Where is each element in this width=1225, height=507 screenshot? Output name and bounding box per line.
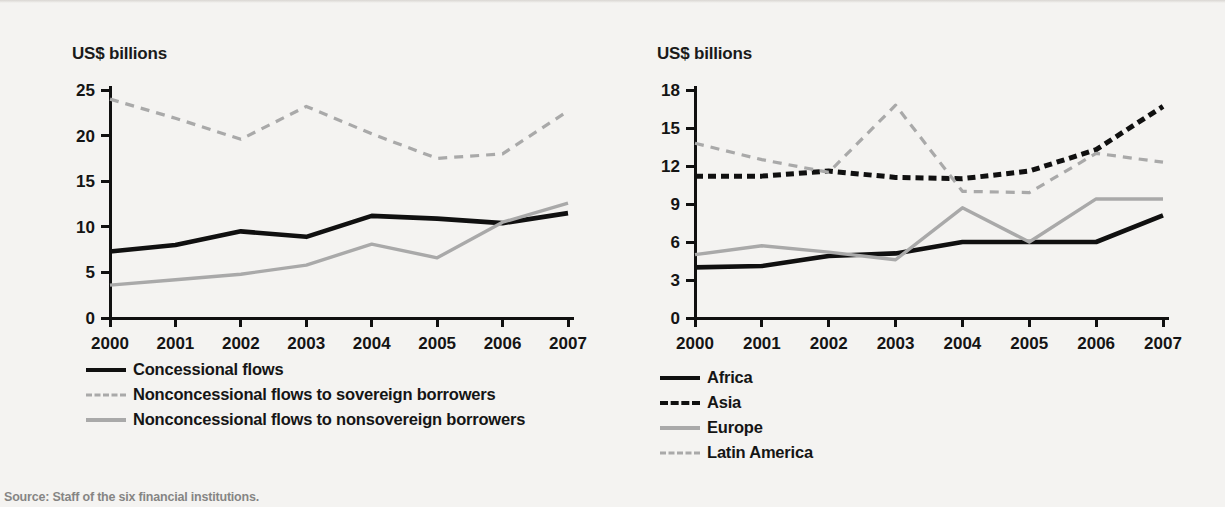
left-chart-plot-area: 0510152025200020012002200320042005200620… (0, 80, 615, 330)
svg-text:2001: 2001 (743, 334, 781, 353)
legend-item-europe[interactable]: Europe (660, 418, 813, 437)
right-chart-plot-area: 0369121518200020012002200320042005200620… (615, 80, 1225, 330)
legend-item-concessional-flows[interactable]: Concessional flows (86, 360, 525, 379)
left-chart-svg: 0510152025200020012002200320042005200620… (0, 80, 615, 330)
svg-text:2005: 2005 (1010, 334, 1048, 353)
svg-text:2004: 2004 (944, 334, 982, 353)
svg-text:15: 15 (661, 119, 680, 138)
legend-item-nonconcessional-nonsovereign[interactable]: Nonconcessional flows to nonsovereign bo… (86, 410, 525, 429)
svg-text:20: 20 (76, 127, 95, 146)
svg-text:2000: 2000 (676, 334, 714, 353)
left-chart-axis-title: US$ billions (72, 44, 167, 64)
legend-swatch-dashed-gray-icon (660, 446, 700, 460)
legend-swatch-solid-black-icon (86, 363, 126, 377)
legend-swatch-solid-gray-icon (86, 413, 126, 427)
series-line-asia (695, 106, 1163, 178)
svg-text:2000: 2000 (91, 334, 129, 353)
figure-two-line-charts: US$ billions 051015202520002001200220032… (0, 0, 1225, 507)
svg-text:10: 10 (76, 218, 95, 237)
right-chart-svg: 0369121518200020012002200320042005200620… (615, 80, 1225, 330)
source-note: Source: Staff of the six financial insti… (4, 490, 259, 504)
svg-text:3: 3 (671, 271, 680, 290)
svg-text:2006: 2006 (484, 334, 522, 353)
left-chart-legend: Concessional flows Nonconcessional flows… (86, 360, 525, 435)
svg-text:9: 9 (671, 195, 680, 214)
svg-text:12: 12 (661, 157, 680, 176)
series-line-nonconcessional-flows-to-sovereign-borrowers (110, 99, 568, 158)
svg-text:2001: 2001 (157, 334, 195, 353)
chart-panel-left: US$ billions 051015202520002001200220032… (0, 0, 615, 470)
legend-label: Europe (707, 418, 763, 437)
svg-text:2002: 2002 (810, 334, 848, 353)
legend-swatch-dashed-gray-icon (86, 388, 126, 402)
legend-item-nonconcessional-sovereign[interactable]: Nonconcessional flows to sovereign borro… (86, 385, 525, 404)
svg-text:25: 25 (76, 81, 95, 100)
legend-item-africa[interactable]: Africa (660, 368, 813, 387)
series-line-europe (695, 199, 1163, 260)
legend-label: Latin America (707, 443, 813, 462)
svg-text:18: 18 (661, 81, 680, 100)
legend-label: Africa (707, 368, 753, 387)
legend-swatch-solid-gray-icon (660, 421, 700, 435)
legend-swatch-solid-black-icon (660, 371, 700, 385)
svg-text:5: 5 (86, 263, 95, 282)
svg-text:2003: 2003 (287, 334, 325, 353)
right-chart-legend: Africa Asia Europe Latin America (660, 368, 813, 468)
legend-item-asia[interactable]: Asia (660, 393, 813, 412)
legend-item-latin-america[interactable]: Latin America (660, 443, 813, 462)
legend-label: Nonconcessional flows to sovereign borro… (133, 385, 496, 404)
legend-label: Nonconcessional flows to nonsovereign bo… (133, 410, 525, 429)
svg-text:2003: 2003 (877, 334, 915, 353)
legend-label: Asia (707, 393, 741, 412)
svg-text:0: 0 (86, 309, 95, 328)
svg-text:2005: 2005 (418, 334, 456, 353)
right-chart-axis-title: US$ billions (657, 44, 752, 64)
svg-text:15: 15 (76, 172, 95, 191)
svg-text:2006: 2006 (1077, 334, 1115, 353)
series-line-africa (695, 215, 1163, 267)
legend-swatch-dashed-black-icon (660, 396, 700, 410)
svg-text:2007: 2007 (1144, 334, 1182, 353)
svg-text:2004: 2004 (353, 334, 391, 353)
svg-text:2002: 2002 (222, 334, 260, 353)
svg-text:0: 0 (671, 309, 680, 328)
svg-text:6: 6 (671, 233, 680, 252)
series-line-concessional-flows (110, 213, 568, 251)
legend-label: Concessional flows (133, 360, 283, 379)
svg-text:2007: 2007 (549, 334, 587, 353)
